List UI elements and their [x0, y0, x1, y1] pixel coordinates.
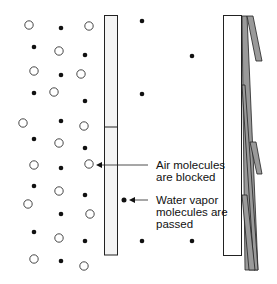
- water-vapor-molecule: [83, 53, 88, 58]
- membrane-diagram: [0, 0, 277, 284]
- membrane-layer-lower: [105, 127, 118, 255]
- air-molecule: [30, 67, 38, 75]
- water-vapor-molecule: [83, 239, 88, 244]
- air-molecule: [30, 255, 38, 263]
- water-vapor-molecule: [32, 137, 37, 142]
- air-molecule: [24, 200, 32, 208]
- air-molecule: [55, 234, 63, 242]
- label-line: molecules are: [156, 206, 228, 218]
- water-vapor-molecule: [140, 92, 145, 97]
- air-molecules: [19, 21, 94, 270]
- arrow-air-head: [96, 162, 102, 168]
- water-vapor-molecule: [59, 26, 64, 31]
- air-molecule: [85, 160, 93, 168]
- arrow-water-head: [129, 197, 135, 203]
- water-vapor-molecule: [83, 99, 88, 104]
- water-vapor-molecule: [32, 91, 37, 96]
- air-molecule: [55, 47, 63, 55]
- label-line: Water vapor: [156, 194, 228, 206]
- air-molecule: [55, 139, 63, 147]
- air-molecule: [85, 22, 93, 30]
- water-vapor-molecule: [190, 54, 195, 59]
- water-vapor-molecule: [59, 166, 64, 171]
- label-line: Air molecules: [156, 159, 225, 171]
- water-passed-label: Water vapor molecules are passed: [156, 194, 228, 230]
- water-vapor-molecule: [83, 193, 88, 198]
- water-vapor-molecule: [59, 212, 64, 217]
- water-vapor-molecule: [140, 239, 145, 244]
- air-molecule: [80, 122, 88, 130]
- air-molecule: [86, 210, 94, 218]
- water-vapor-molecule: [59, 259, 64, 264]
- air-molecule: [50, 88, 58, 96]
- air-molecule: [25, 21, 33, 29]
- air-molecule: [80, 262, 88, 270]
- water-vapor-molecule: [32, 230, 37, 235]
- siding-flap: [247, 16, 262, 61]
- water-vapor-molecule: [59, 119, 64, 124]
- air-molecule: [19, 119, 27, 127]
- air-blocked-label: Air molecules are blocked: [156, 159, 225, 183]
- water-vapor-molecule: [59, 73, 64, 78]
- membrane-layer: [105, 16, 118, 128]
- water-vapor-molecule: [32, 184, 37, 189]
- water-vapor-molecule: [32, 45, 37, 50]
- label-line: passed: [156, 218, 228, 230]
- water-vapor-molecule: [140, 19, 145, 24]
- water-vapor-molecule: [190, 239, 195, 244]
- water-vapor-molecule: [83, 146, 88, 151]
- air-molecule: [77, 70, 85, 78]
- air-molecule: [55, 187, 63, 195]
- label-line: are blocked: [156, 171, 225, 183]
- water-vapor-molecule: [122, 198, 127, 203]
- air-molecule: [30, 161, 38, 169]
